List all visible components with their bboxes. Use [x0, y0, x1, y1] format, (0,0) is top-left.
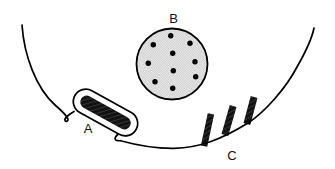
cell-membrane-left — [22, 25, 74, 121]
cell-diagram: A B C — [0, 0, 335, 169]
label-a: A — [84, 121, 93, 136]
diagram-canvas: A B C — [0, 0, 335, 169]
label-b: B — [169, 11, 178, 26]
label-c: C — [227, 148, 236, 163]
